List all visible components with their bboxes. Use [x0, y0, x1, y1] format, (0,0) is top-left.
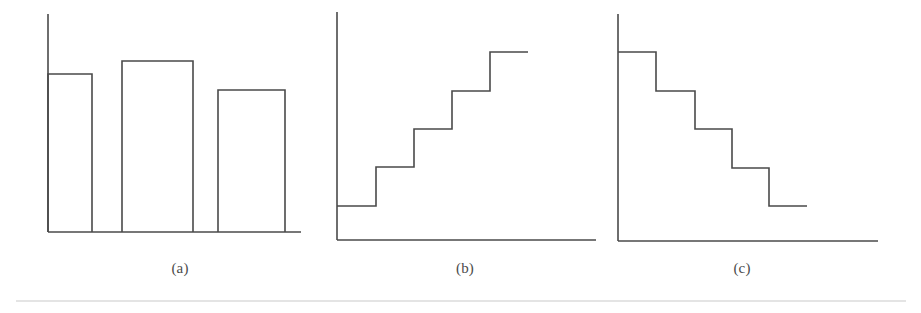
panel-b-caption: (b): [456, 260, 474, 277]
figure-svg: (a) (b) (c): [0, 0, 921, 313]
figure-container: (a) (b) (c): [0, 0, 921, 313]
panel-a-caption: (a): [171, 260, 188, 277]
panel-c-caption: (c): [733, 260, 750, 277]
